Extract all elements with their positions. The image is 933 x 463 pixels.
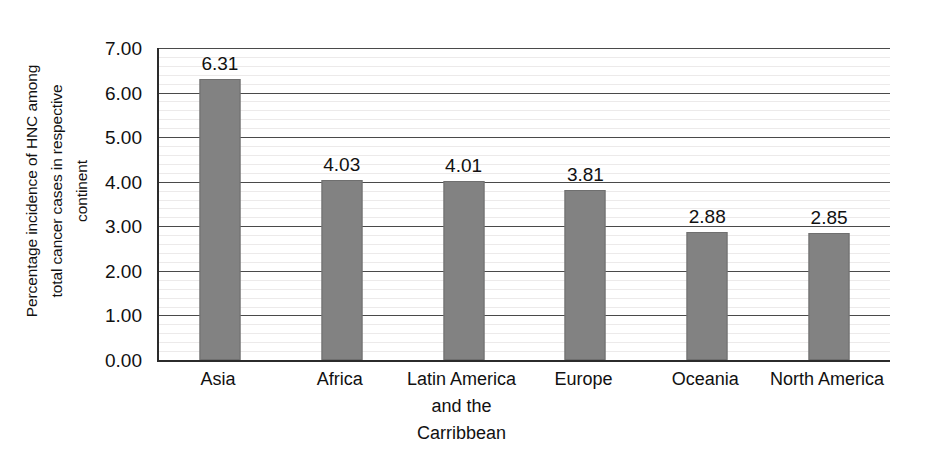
y-axis-tick-label: 0.00 bbox=[105, 351, 142, 370]
x-axis-category-label-line: Africa bbox=[279, 366, 401, 393]
bar-group[interactable]: 4.01 bbox=[403, 48, 525, 360]
bar-group[interactable]: 3.81 bbox=[525, 48, 647, 360]
bar-value-label: 4.01 bbox=[445, 156, 482, 175]
x-axis-category-label: North America bbox=[766, 366, 888, 393]
y-axis-tick-label: 3.00 bbox=[105, 217, 142, 236]
x-axis-category-label: Europe bbox=[523, 366, 645, 393]
y-axis-tick-label: 6.00 bbox=[105, 83, 142, 102]
x-axis-category-label: Asia bbox=[157, 366, 279, 393]
y-axis-tick-label: 1.00 bbox=[105, 306, 142, 325]
bar-series: 6.314.034.013.812.882.85 bbox=[159, 48, 890, 360]
bar-value-label: 2.85 bbox=[811, 208, 848, 227]
y-axis-tick-label: 5.00 bbox=[105, 128, 142, 147]
x-axis-category-label: Latin Americaand theCarribbean bbox=[401, 366, 523, 447]
x-axis-category-label-line: Carribbean bbox=[401, 420, 523, 447]
x-axis-category-labels: AsiaAfricaLatin Americaand theCarribbean… bbox=[157, 366, 888, 458]
bar[interactable] bbox=[199, 79, 240, 360]
x-axis-category-label-line: North America bbox=[766, 366, 888, 393]
bar-group[interactable]: 2.85 bbox=[768, 48, 890, 360]
bar-value-label: 3.81 bbox=[567, 165, 604, 184]
x-axis-category-label-line: and the bbox=[401, 393, 523, 420]
x-axis-category-label-line: Europe bbox=[523, 366, 645, 393]
bar[interactable] bbox=[565, 190, 606, 360]
x-axis-category-label: Oceania bbox=[644, 366, 766, 393]
bar-group[interactable]: 6.31 bbox=[159, 48, 281, 360]
bar-group[interactable]: 4.03 bbox=[281, 48, 403, 360]
y-axis-tick-label: 7.00 bbox=[105, 39, 142, 58]
bar-value-label: 6.31 bbox=[201, 54, 238, 73]
bar-value-label: 2.88 bbox=[689, 207, 726, 226]
bar-group[interactable]: 2.88 bbox=[646, 48, 768, 360]
x-axis-category-label: Africa bbox=[279, 366, 401, 393]
y-axis-tick-label: 4.00 bbox=[105, 172, 142, 191]
x-axis-category-label-line: Asia bbox=[157, 366, 279, 393]
y-axis-title: Percentage incidence of HNC among total … bbox=[18, 16, 94, 366]
bar[interactable] bbox=[687, 232, 728, 360]
bar[interactable] bbox=[321, 180, 362, 360]
bar[interactable] bbox=[809, 233, 850, 360]
y-axis-tick-labels: 7.006.005.004.003.002.001.000.00 bbox=[88, 48, 150, 360]
bar-value-label: 4.03 bbox=[323, 155, 360, 174]
x-axis-category-label-line: Oceania bbox=[644, 366, 766, 393]
bar-chart-figure: Percentage incidence of HNC among total … bbox=[0, 0, 933, 463]
y-axis-title-text: Percentage incidence of HNC among total … bbox=[19, 16, 94, 366]
bar[interactable] bbox=[443, 181, 484, 360]
y-axis-tick-label: 2.00 bbox=[105, 261, 142, 280]
x-axis-category-label-line: Latin America bbox=[401, 366, 523, 393]
plot-area: 6.314.034.013.812.882.85 bbox=[157, 48, 890, 362]
